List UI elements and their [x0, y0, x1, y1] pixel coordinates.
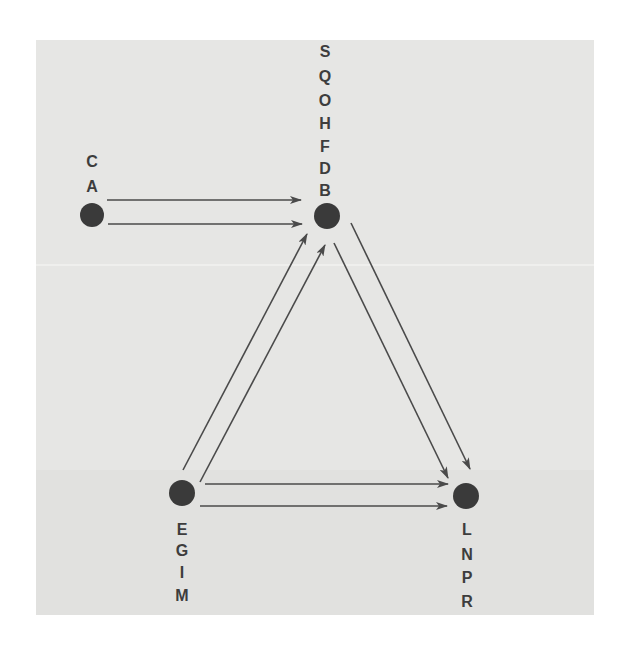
arrow-e-to-b	[183, 234, 307, 470]
node-label-f: F	[315, 139, 335, 155]
node-label-b: B	[315, 183, 335, 199]
node-b	[314, 203, 340, 229]
node-e	[169, 480, 195, 506]
edges-layer	[107, 200, 470, 506]
node-a	[80, 203, 104, 227]
node-label-m: M	[172, 588, 192, 604]
arrow-e-to-b	[200, 245, 325, 482]
node-label-g: G	[172, 543, 192, 559]
node-label-s: S	[315, 44, 335, 60]
node-label-c: C	[82, 154, 102, 170]
network-diagram	[0, 0, 625, 646]
node-label-h: H	[315, 116, 335, 132]
node-label-d: D	[315, 161, 335, 177]
node-label-l: L	[457, 522, 477, 538]
node-label-q: Q	[315, 69, 335, 85]
node-label-a: A	[82, 179, 102, 195]
node-label-e: E	[172, 522, 192, 538]
node-label-i: I	[172, 565, 192, 581]
node-label-p: P	[457, 570, 477, 586]
node-label-r: R	[457, 594, 477, 610]
node-l	[453, 483, 479, 509]
arrow-b-to-l	[351, 223, 470, 469]
nodes-layer	[80, 203, 479, 509]
arrow-b-to-l	[334, 243, 448, 478]
node-label-o: O	[315, 93, 335, 109]
node-label-n: N	[457, 547, 477, 563]
